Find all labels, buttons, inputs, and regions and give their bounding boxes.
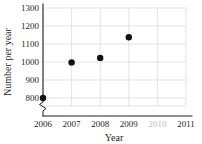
x-tick-label-2011: 2011 [177, 119, 195, 129]
x-tick-label-2009: 2009 [120, 119, 139, 129]
x-tick-label-2007: 2007 [63, 119, 82, 129]
x-tick-label-2008: 2008 [91, 119, 110, 129]
y-tick-label-1200: 1200 [21, 21, 40, 31]
data-point-2007 [68, 59, 74, 65]
chart-canvas: 1300 1200 1100 1000 900 800 2006 2007 20… [0, 0, 202, 144]
data-point-2009 [126, 34, 132, 40]
data-point-2008 [97, 55, 103, 61]
y-tick-label-1000: 1000 [21, 57, 40, 67]
y-axis-title: Number per year [2, 27, 13, 95]
scatter-chart: 1300 1200 1100 1000 900 800 2006 2007 20… [0, 0, 202, 144]
y-tick-labels: 1300 1200 1100 1000 900 800 [21, 3, 40, 103]
plot-background [43, 8, 186, 106]
y-tick-label-900: 900 [26, 75, 40, 85]
x-tick-labels: 2006 2007 2008 2009 2010 2011 [34, 119, 195, 129]
x-tick-label-2006: 2006 [34, 119, 53, 129]
x-tick-label-2010: 2010 [148, 119, 167, 129]
y-tick-label-800: 800 [26, 93, 40, 103]
y-tick-label-1100: 1100 [21, 39, 39, 49]
y-tick-label-1300: 1300 [21, 3, 40, 13]
x-axis-title: Year [105, 132, 124, 143]
data-point-2006 [40, 95, 46, 101]
